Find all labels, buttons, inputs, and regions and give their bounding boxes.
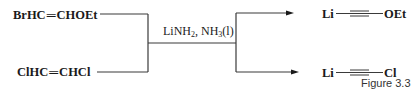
triple-bond-2-icon: [336, 70, 383, 75]
product-1-left: Li: [322, 8, 334, 21]
arrowhead-2-icon: [291, 70, 299, 75]
reaction-scheme: BrHC═CHOEt ClHC═CHCl LiNH2, NH3(l): [0, 0, 415, 90]
product-2-left: Li: [322, 67, 334, 80]
reaction-lines: [0, 0, 415, 90]
arrowhead-1-icon: [286, 11, 294, 16]
figure-caption: Figure 3.3: [361, 78, 411, 89]
triple-bond-1-icon: [336, 11, 383, 16]
product-1-right: OEt: [384, 8, 406, 21]
